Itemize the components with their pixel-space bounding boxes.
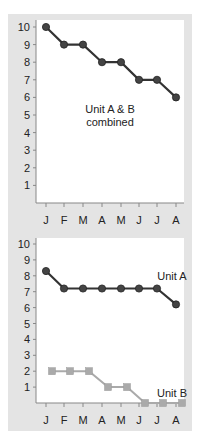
bottom-line-chart: 12345678910JFMAMJJAUnit AUnit B [18,238,188,426]
y-tick-label: 6 [24,91,30,103]
y-tick-label: 7 [24,286,30,298]
square-marker [49,368,56,375]
circle-marker [79,41,86,48]
y-tick-label: 8 [24,270,30,282]
circle-marker [153,76,160,83]
circle-marker [98,59,105,66]
circle-marker [135,285,142,292]
top-line-chart: 12345678910JFMAMJJAUnit A & Bcombined [18,20,184,226]
circle-marker [153,285,160,292]
y-tick-label: 2 [24,365,30,377]
square-marker [160,400,167,407]
square-marker [105,384,112,391]
y-tick-label: 1 [24,179,30,191]
chart-annotation: combined [86,116,134,128]
x-tick-label: A [98,414,106,426]
x-tick-label: J [43,214,49,226]
x-tick-label: J [154,414,160,426]
circle-marker [117,59,124,66]
y-tick-label: 8 [24,56,30,68]
x-tick-label: J [136,214,142,226]
square-marker [67,368,74,375]
y-tick-label: 9 [24,254,30,266]
circle-marker [60,41,67,48]
x-tick-label: A [98,214,106,226]
chart-annotation: Unit A & B [85,103,135,115]
unit-a-label: Unit A [157,270,187,282]
plot-area [36,238,184,403]
x-tick-label: J [154,214,160,226]
square-marker [86,368,93,375]
x-tick-label: J [136,414,142,426]
square-marker [142,400,149,407]
circle-marker [42,267,49,274]
y-tick-label: 9 [24,39,30,51]
y-tick-label: 1 [24,381,30,393]
y-tick-label: 10 [18,238,30,250]
x-tick-label: M [78,414,87,426]
y-tick-label: 2 [24,162,30,174]
x-tick-label: M [116,414,125,426]
circle-marker [172,301,179,308]
y-tick-label: 3 [24,349,30,361]
circle-marker [135,76,142,83]
x-tick-label: F [61,214,68,226]
square-marker [179,400,186,407]
circle-marker [98,285,105,292]
circle-marker [117,285,124,292]
x-tick-label: M [78,214,87,226]
y-tick-label: 10 [18,21,30,33]
y-tick-label: 5 [24,109,30,121]
x-tick-label: A [172,214,180,226]
y-tick-label: 6 [24,302,30,314]
y-tick-label: 7 [24,74,30,86]
unit-b-label: Unit B [157,387,187,399]
y-tick-label: 5 [24,318,30,330]
square-marker [124,384,131,391]
circle-marker [60,285,67,292]
circle-marker [172,94,179,101]
top-chart: 12345678910JFMAMJJAUnit A & Bcombined123… [0,0,199,443]
y-tick-label: 4 [24,127,30,139]
x-tick-label: F [61,414,68,426]
x-tick-label: J [43,414,49,426]
circle-marker [42,23,49,30]
x-tick-label: A [172,414,180,426]
y-tick-label: 4 [24,333,30,345]
y-tick-label: 3 [24,144,30,156]
x-tick-label: M [116,214,125,226]
circle-marker [79,285,86,292]
